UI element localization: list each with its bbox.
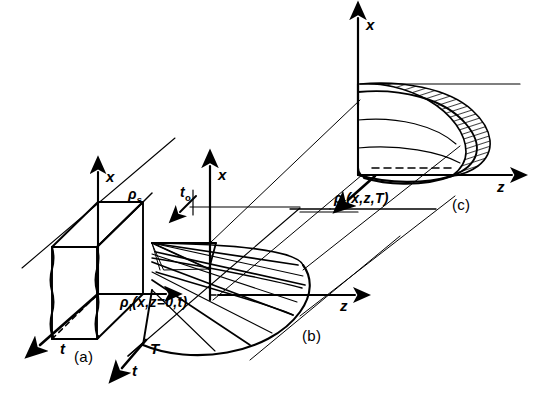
rho-s-subscript: s xyxy=(137,194,143,205)
rho-f-label-panel-a: ρf(x,z=0,t) xyxy=(120,294,187,313)
t0-subscript: o xyxy=(185,192,191,203)
t0-label: to xyxy=(180,184,191,203)
axis-label-x-panel-a: x xyxy=(106,168,115,185)
panel-c-drawing xyxy=(290,18,520,212)
rho-f-label-panel-c: ρf(x,z,T) xyxy=(334,190,389,209)
axis-label-z-panel-b: z xyxy=(340,297,348,314)
rho-f-args-a: (x,z=0,t) xyxy=(132,294,187,310)
panel-tag-a: (a) xyxy=(74,348,93,365)
axis-label-T-panel-b: T xyxy=(150,340,159,357)
axis-label-z-panel-c: z xyxy=(497,178,505,195)
rho-f-args-c: (x,z,T) xyxy=(346,190,389,206)
rho-s-symbol: ρ xyxy=(128,186,137,202)
axis-label-x-panel-c: x xyxy=(366,16,375,33)
axis-label-t-panel-a: t xyxy=(60,340,65,357)
panel-tag-b: (b) xyxy=(302,327,321,344)
rho-s-label: ρs xyxy=(128,186,142,205)
axis-label-x-panel-b: x xyxy=(218,166,227,183)
rho-f-symbol-c: ρ xyxy=(334,190,343,206)
rho-f-symbol-a: ρ xyxy=(120,294,129,310)
figure-canvas: x t ρs ρf(x,z=0,t) (a) x z t T to (b) x … xyxy=(0,0,540,414)
panel-tag-c: (c) xyxy=(452,196,470,213)
axis-label-t-panel-b: t xyxy=(132,362,137,379)
panel-a-drawing xyxy=(22,138,175,345)
